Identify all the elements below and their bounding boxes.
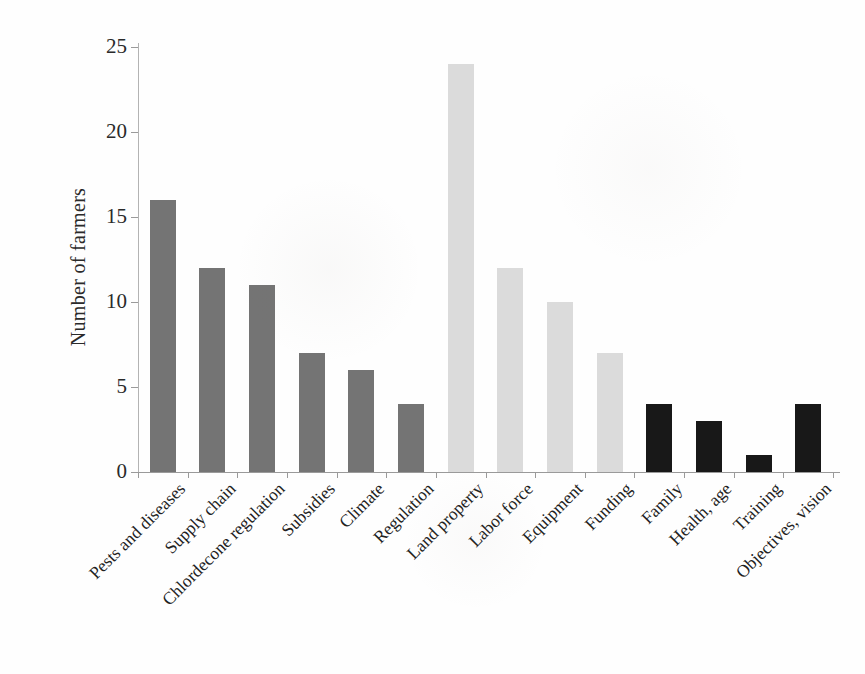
bar-labor-force xyxy=(497,268,523,472)
y-axis xyxy=(138,43,139,472)
y-tick xyxy=(131,387,138,388)
x-tick-label: Funding xyxy=(582,480,636,534)
bar-climate xyxy=(348,370,374,472)
bar-family xyxy=(646,404,672,472)
x-tick xyxy=(833,473,834,478)
x-tick xyxy=(386,473,387,478)
bar-objectives-vision xyxy=(795,404,821,472)
x-tick xyxy=(188,473,189,478)
x-tick xyxy=(287,473,288,478)
y-tick-label: 25 xyxy=(79,36,127,57)
x-tick xyxy=(684,473,685,478)
bar-subsidies xyxy=(299,353,325,472)
bar-equipment xyxy=(547,302,573,472)
bar-regulation xyxy=(398,404,424,472)
y-tick xyxy=(131,302,138,303)
y-tick-label: 0 xyxy=(79,461,127,482)
bar-pests-and-diseases xyxy=(150,200,176,472)
bar-health-age xyxy=(696,421,722,472)
bar-land-property xyxy=(448,64,474,472)
x-tick xyxy=(436,473,437,478)
x-tick xyxy=(634,473,635,478)
chart-figure: Number of farmers 0510152025Pests and di… xyxy=(0,0,865,674)
bar-supply-chain xyxy=(199,268,225,472)
x-tick xyxy=(337,473,338,478)
x-tick-label: Subsidies xyxy=(278,480,338,540)
x-tick xyxy=(138,473,139,478)
plot-area: 0510152025Pests and diseasesSupply chain… xyxy=(0,0,865,674)
x-tick xyxy=(237,473,238,478)
y-tick xyxy=(131,472,138,473)
y-tick-label: 5 xyxy=(79,376,127,397)
x-tick xyxy=(734,473,735,478)
y-tick xyxy=(131,47,138,48)
x-tick xyxy=(585,473,586,478)
y-tick xyxy=(131,217,138,218)
x-tick xyxy=(535,473,536,478)
bar-training xyxy=(746,455,772,472)
y-tick-label: 10 xyxy=(79,291,127,312)
y-tick-label: 15 xyxy=(79,206,127,227)
y-tick xyxy=(131,132,138,133)
y-tick-label: 20 xyxy=(79,121,127,142)
x-tick-label: Objectives, vision xyxy=(733,480,835,582)
bar-chlordecone-regulation xyxy=(249,285,275,472)
x-tick xyxy=(783,473,784,478)
x-tick xyxy=(486,473,487,478)
bar-funding xyxy=(597,353,623,472)
